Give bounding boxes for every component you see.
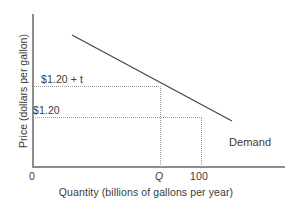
x-axis-title: Quantity (billions of gallons per year) [0,186,292,198]
y-axis-line [32,14,34,167]
x-tick-label-q: Q [155,170,163,182]
price-with-tax-label: $1.20 + t [41,73,83,85]
y-axis-title: Price (dollars per gallon) [17,21,29,161]
price-base-label: $1.20 [33,104,60,116]
guideline-quantity-100-vertical [201,117,202,167]
demand-curve-chart: $1.20 + t $1.20 Demand 0 Q 100 Quantity … [0,0,292,208]
guideline-quantity-q-vertical [160,86,161,167]
guideline-price-base-horizontal [33,117,202,118]
guideline-price-with-tax-horizontal [33,86,161,87]
x-axis-line [32,166,285,168]
x-tick-label-0: 0 [29,170,35,182]
x-tick-label-100: 100 [190,170,208,182]
demand-curve-label: Demand [229,136,271,148]
